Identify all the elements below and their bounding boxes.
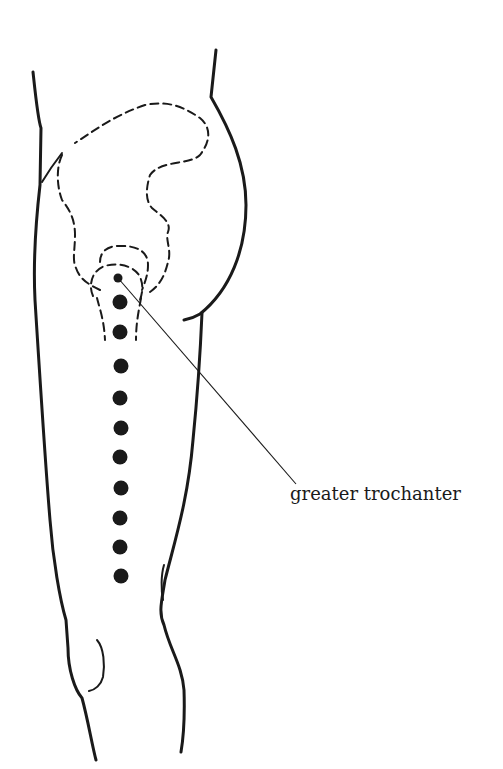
thigh-front-outline — [33, 72, 96, 760]
dot-6 — [113, 450, 128, 465]
thigh-back-outline — [161, 313, 202, 752]
acetabulum-dashed — [100, 246, 148, 290]
point-dots — [113, 295, 129, 584]
greater-trochanter-label: greater trochanter — [290, 483, 461, 504]
dot-1 — [113, 295, 128, 310]
hip-thigh-diagram — [0, 0, 503, 769]
femur-shaft-left-dashed — [97, 298, 105, 340]
greater-trochanter-marker — [114, 274, 123, 283]
dot-2 — [113, 325, 128, 340]
patella-curve — [89, 640, 104, 691]
dot-8 — [113, 511, 128, 526]
dot-3 — [114, 359, 129, 374]
dot-7 — [114, 481, 129, 496]
buttock-outline — [184, 50, 246, 320]
dot-9 — [113, 540, 128, 555]
pelvis-outline-dashed — [58, 103, 208, 292]
dot-4 — [113, 391, 128, 406]
dot-10 — [114, 569, 129, 584]
dot-5 — [114, 421, 129, 436]
